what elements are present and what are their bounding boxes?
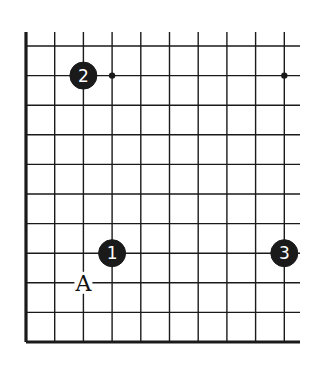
- stone-1: 1: [99, 240, 126, 267]
- stone-number: 3: [279, 243, 290, 263]
- stone-number: 2: [78, 66, 89, 86]
- star-point: [281, 72, 287, 78]
- point-label-A: A: [74, 271, 92, 296]
- board-grid: [26, 32, 300, 342]
- go-board: 123 A: [0, 0, 325, 373]
- stone-2: 2: [70, 62, 97, 89]
- stone-3: 3: [271, 240, 298, 267]
- stone-number: 1: [107, 243, 118, 263]
- star-point: [109, 72, 115, 78]
- point-labels: A: [74, 271, 92, 296]
